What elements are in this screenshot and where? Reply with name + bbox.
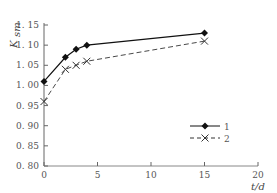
- y-tick-label: 1. 05: [16, 60, 39, 70]
- y-axis-ticks: 0. 800. 850. 900. 951. 001. 051. 101. 15: [16, 20, 48, 171]
- legend-item-2: 2: [190, 134, 230, 144]
- legend: 12: [190, 122, 230, 144]
- x-tick-label: 10: [145, 170, 157, 180]
- y-axis-title-main: K: [8, 40, 19, 49]
- series-2: [41, 38, 209, 105]
- y-tick-label: 1. 00: [16, 80, 39, 90]
- x-tick-label: 0: [41, 170, 47, 180]
- y-axis-title-sub: sm: [11, 22, 22, 37]
- legend-label: 1: [224, 122, 230, 132]
- y-tick-label: 0. 85: [16, 141, 39, 151]
- x-marker: [73, 62, 80, 69]
- x-tick-label: 20: [252, 170, 264, 180]
- legend-label: 2: [224, 134, 230, 144]
- x-tick-label: 5: [95, 170, 101, 180]
- x-marker: [83, 58, 90, 65]
- x-axis-title: t/d: [251, 181, 265, 192]
- x-marker: [62, 66, 69, 73]
- data-series: [41, 30, 209, 105]
- series-1: [41, 30, 209, 85]
- legend-item-1: 1: [190, 122, 230, 132]
- diamond-marker: [202, 123, 209, 130]
- x-axis-ticks: 05101520: [41, 162, 264, 180]
- y-tick-label: 0. 95: [16, 101, 39, 111]
- axes: [44, 23, 258, 166]
- diamond-marker: [83, 42, 90, 49]
- diamond-marker: [201, 30, 208, 37]
- line-chart: 0. 800. 850. 900. 951. 001. 051. 101. 15…: [0, 0, 277, 193]
- y-tick-label: 0. 90: [16, 121, 39, 131]
- y-tick-label: 1. 10: [16, 40, 39, 50]
- y-tick-label: 0. 80: [16, 161, 39, 171]
- x-tick-label: 15: [199, 170, 211, 180]
